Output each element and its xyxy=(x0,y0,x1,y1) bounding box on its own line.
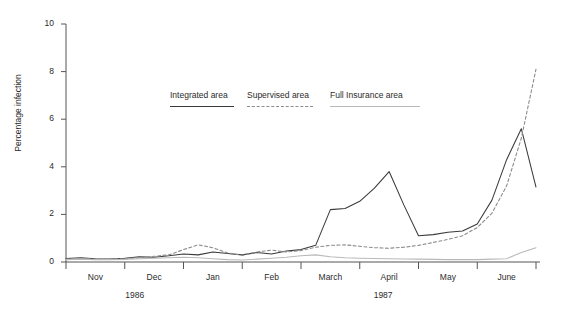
legend-label-full-insurance-area: Full Insurance area xyxy=(330,90,403,100)
legend-label-supervised-area: Supervised area xyxy=(247,90,309,100)
y-tick-label: 8 xyxy=(32,66,54,76)
legend-label-integrated-area: Integrated area xyxy=(170,90,228,100)
x-tick-label-april: April xyxy=(359,272,419,282)
series-line-integrated-area xyxy=(66,129,536,259)
x-tick-label-feb: Feb xyxy=(242,272,302,282)
year-label-1987: 1987 xyxy=(353,290,413,300)
legend-swatch-integrated-area xyxy=(170,106,234,107)
year-label-1986: 1986 xyxy=(105,290,165,300)
x-tick-label-dec: Dec xyxy=(124,272,184,282)
y-tick-label: 6 xyxy=(32,113,54,123)
x-tick-label-nov: Nov xyxy=(65,272,125,282)
x-tick-label-june: June xyxy=(477,272,537,282)
legend-swatch-full-insurance-area xyxy=(330,106,420,107)
legend-swatch-supervised-area xyxy=(247,106,313,107)
x-tick-label-may: May xyxy=(418,272,478,282)
y-tick-label: 4 xyxy=(32,161,54,171)
chart-figure: Percentage infection 0246810 NovDecJanFe… xyxy=(0,0,566,314)
x-tick-label-march: March xyxy=(300,272,360,282)
y-tick-label: 0 xyxy=(32,256,54,266)
x-tick-label-jan: Jan xyxy=(183,272,243,282)
plot-canvas xyxy=(0,0,566,314)
y-tick-label: 2 xyxy=(32,208,54,218)
y-tick-label: 10 xyxy=(32,18,54,28)
